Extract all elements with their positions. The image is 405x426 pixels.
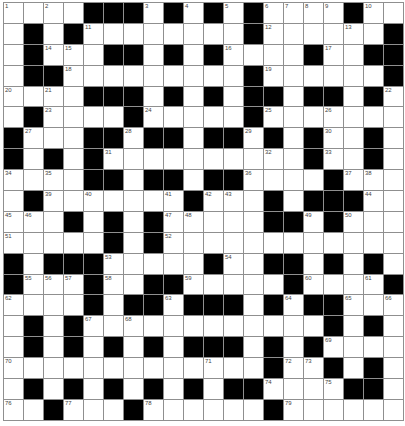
grid-cell[interactable] bbox=[64, 3, 84, 24]
grid-cell[interactable] bbox=[164, 400, 184, 421]
grid-cell[interactable] bbox=[364, 337, 384, 358]
grid-cell[interactable] bbox=[104, 107, 124, 128]
grid-cell[interactable] bbox=[144, 316, 164, 337]
grid-cell[interactable] bbox=[224, 316, 244, 337]
grid-cell[interactable] bbox=[324, 24, 344, 45]
grid-cell[interactable] bbox=[284, 128, 304, 149]
grid-cell[interactable] bbox=[4, 45, 24, 66]
grid-cell[interactable]: 16 bbox=[224, 45, 244, 66]
grid-cell[interactable] bbox=[384, 358, 404, 379]
grid-cell[interactable] bbox=[244, 149, 264, 170]
grid-cell[interactable]: 10 bbox=[364, 3, 384, 24]
grid-cell[interactable] bbox=[164, 358, 184, 379]
grid-cell[interactable] bbox=[284, 191, 304, 212]
grid-cell[interactable] bbox=[124, 379, 144, 400]
grid-cell[interactable] bbox=[324, 233, 344, 254]
grid-cell[interactable] bbox=[224, 400, 244, 421]
grid-cell[interactable]: 15 bbox=[64, 45, 84, 66]
grid-cell[interactable] bbox=[244, 212, 264, 233]
grid-cell[interactable]: 43 bbox=[224, 191, 244, 212]
grid-cell[interactable]: 19 bbox=[264, 66, 284, 87]
grid-cell[interactable]: 24 bbox=[144, 107, 164, 128]
grid-cell[interactable] bbox=[364, 400, 384, 421]
grid-cell[interactable] bbox=[284, 87, 304, 108]
grid-cell[interactable]: 72 bbox=[284, 358, 304, 379]
grid-cell[interactable] bbox=[4, 379, 24, 400]
grid-cell[interactable] bbox=[244, 233, 264, 254]
grid-cell[interactable]: 50 bbox=[344, 212, 364, 233]
grid-cell[interactable] bbox=[124, 358, 144, 379]
grid-cell[interactable]: 2 bbox=[44, 3, 64, 24]
grid-cell[interactable]: 41 bbox=[164, 191, 184, 212]
grid-cell[interactable] bbox=[4, 337, 24, 358]
grid-cell[interactable] bbox=[164, 107, 184, 128]
grid-cell[interactable] bbox=[224, 66, 244, 87]
grid-cell[interactable] bbox=[324, 275, 344, 296]
grid-cell[interactable] bbox=[344, 45, 364, 66]
grid-cell[interactable]: 42 bbox=[204, 191, 224, 212]
grid-cell[interactable] bbox=[204, 107, 224, 128]
grid-cell[interactable] bbox=[384, 337, 404, 358]
grid-cell[interactable] bbox=[284, 337, 304, 358]
grid-cell[interactable] bbox=[284, 107, 304, 128]
grid-cell[interactable] bbox=[244, 295, 264, 316]
grid-cell[interactable]: 65 bbox=[344, 295, 364, 316]
grid-cell[interactable]: 13 bbox=[344, 24, 364, 45]
grid-cell[interactable]: 68 bbox=[124, 316, 144, 337]
grid-cell[interactable] bbox=[124, 149, 144, 170]
grid-cell[interactable]: 6 bbox=[264, 3, 284, 24]
grid-cell[interactable]: 53 bbox=[104, 254, 124, 275]
grid-cell[interactable] bbox=[24, 254, 44, 275]
grid-cell[interactable]: 77 bbox=[64, 400, 84, 421]
grid-cell[interactable] bbox=[384, 170, 404, 191]
grid-cell[interactable] bbox=[124, 233, 144, 254]
grid-cell[interactable] bbox=[24, 400, 44, 421]
grid-cell[interactable]: 33 bbox=[324, 149, 344, 170]
grid-cell[interactable]: 39 bbox=[44, 191, 64, 212]
grid-cell[interactable] bbox=[344, 107, 364, 128]
grid-cell[interactable] bbox=[304, 66, 324, 87]
grid-cell[interactable] bbox=[184, 358, 204, 379]
grid-cell[interactable] bbox=[324, 66, 344, 87]
grid-cell[interactable] bbox=[384, 379, 404, 400]
grid-cell[interactable] bbox=[44, 316, 64, 337]
grid-cell[interactable] bbox=[384, 3, 404, 24]
grid-cell[interactable] bbox=[44, 128, 64, 149]
grid-cell[interactable] bbox=[24, 3, 44, 24]
grid-cell[interactable] bbox=[24, 358, 44, 379]
grid-cell[interactable] bbox=[184, 254, 204, 275]
grid-cell[interactable] bbox=[264, 275, 284, 296]
grid-cell[interactable] bbox=[64, 149, 84, 170]
grid-cell[interactable]: 45 bbox=[4, 212, 24, 233]
grid-cell[interactable]: 37 bbox=[344, 170, 364, 191]
grid-cell[interactable] bbox=[184, 87, 204, 108]
grid-cell[interactable] bbox=[124, 24, 144, 45]
grid-cell[interactable]: 4 bbox=[184, 3, 204, 24]
grid-cell[interactable]: 22 bbox=[384, 87, 404, 108]
grid-cell[interactable] bbox=[4, 66, 24, 87]
grid-cell[interactable] bbox=[344, 128, 364, 149]
grid-cell[interactable] bbox=[384, 233, 404, 254]
grid-cell[interactable] bbox=[284, 45, 304, 66]
grid-cell[interactable]: 55 bbox=[24, 275, 44, 296]
grid-cell[interactable] bbox=[184, 45, 204, 66]
grid-cell[interactable] bbox=[384, 316, 404, 337]
grid-cell[interactable] bbox=[304, 107, 324, 128]
grid-cell[interactable] bbox=[64, 128, 84, 149]
grid-cell[interactable] bbox=[304, 170, 324, 191]
grid-cell[interactable]: 35 bbox=[44, 170, 64, 191]
grid-cell[interactable] bbox=[204, 149, 224, 170]
grid-cell[interactable] bbox=[164, 24, 184, 45]
grid-cell[interactable] bbox=[344, 400, 364, 421]
grid-cell[interactable] bbox=[344, 254, 364, 275]
grid-cell[interactable]: 78 bbox=[144, 400, 164, 421]
grid-cell[interactable] bbox=[84, 45, 104, 66]
grid-cell[interactable] bbox=[4, 316, 24, 337]
grid-cell[interactable] bbox=[4, 24, 24, 45]
grid-cell[interactable] bbox=[224, 233, 244, 254]
grid-cell[interactable]: 36 bbox=[244, 170, 264, 191]
grid-cell[interactable] bbox=[124, 337, 144, 358]
grid-cell[interactable] bbox=[164, 316, 184, 337]
grid-cell[interactable]: 70 bbox=[4, 358, 24, 379]
grid-cell[interactable]: 26 bbox=[324, 107, 344, 128]
